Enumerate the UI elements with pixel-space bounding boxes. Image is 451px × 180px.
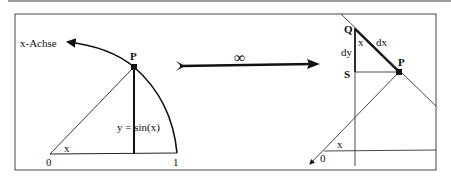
right-point-p-marker xyxy=(396,69,402,75)
left-panel: x-Achse P y = sin(x) x 0 1 xyxy=(20,37,179,168)
angle-bottom-label: x xyxy=(337,138,343,150)
sine-derivative-diagram: x-Achse P y = sin(x) x 0 1 ∞ xyxy=(0,0,451,180)
s-label: S xyxy=(344,68,350,80)
limit-arrow: ∞ xyxy=(176,49,320,71)
point-p-label: P xyxy=(130,50,137,62)
limit-arrow-shaft xyxy=(180,64,312,66)
q-label: Q xyxy=(344,23,353,35)
sine-label: y = sin(x) xyxy=(117,121,160,134)
angle-x-label: x xyxy=(64,142,70,154)
diagram-canvas: x-Achse P y = sin(x) x 0 1 ∞ xyxy=(0,0,451,180)
infinity-symbol: ∞ xyxy=(234,49,245,66)
point-p-marker xyxy=(131,64,137,70)
frame-border xyxy=(15,14,436,170)
right-baseline xyxy=(324,150,436,151)
dx-label: dx xyxy=(376,36,388,48)
dy-label: dy xyxy=(341,46,353,58)
origin-label: 0 xyxy=(46,156,52,168)
right-origin-label: 0 xyxy=(320,152,326,164)
arc-x-axis xyxy=(68,42,177,153)
x-axis-label: x-Achse xyxy=(20,37,57,49)
right-p-label: P xyxy=(398,56,405,68)
right-panel: Q S P dx dy x x 0 xyxy=(310,14,436,166)
radius-line xyxy=(50,67,134,154)
angle-top-label: x xyxy=(358,36,364,48)
one-label: 1 xyxy=(173,156,179,168)
